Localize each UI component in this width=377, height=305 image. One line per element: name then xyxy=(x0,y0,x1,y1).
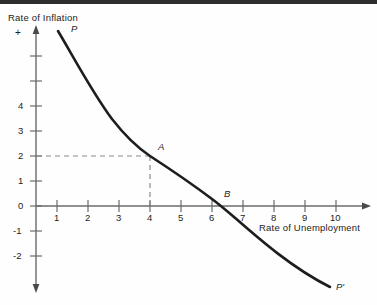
y-tick-label-0: 0 xyxy=(18,200,23,211)
x-tick-label-1: 1 xyxy=(54,212,59,223)
curve-start-label-p: P xyxy=(71,23,77,34)
y-tick-label-4: 4 xyxy=(18,100,23,111)
x-axis-title: Rate of Unemployment xyxy=(259,222,360,233)
point-label-b: B xyxy=(224,188,230,199)
y-tick-label-minus-2: -2 xyxy=(13,250,21,261)
x-tick-label-9: 9 xyxy=(302,212,307,223)
x-tick-label-5: 5 xyxy=(178,212,183,223)
phillips-curve-line xyxy=(58,31,330,287)
y-tick-label-2: 2 xyxy=(18,150,23,161)
curve-end-label-p-prime: P' xyxy=(336,281,344,292)
chart-page: Rate of Inflation Rate of Unemployment +… xyxy=(0,0,377,305)
x-tick-label-4: 4 xyxy=(147,212,152,223)
point-label-a: A xyxy=(158,141,164,152)
x-tick-label-7: 7 xyxy=(240,212,245,223)
positive-axis-plus-sign: + xyxy=(15,27,21,38)
y-tick-label-3: 3 xyxy=(18,125,23,136)
y-tick-label-minus-1: -1 xyxy=(13,225,21,236)
y-axis-title: Rate of Inflation xyxy=(8,12,78,23)
x-tick-label-6: 6 xyxy=(209,212,214,223)
x-tick-label-10: 10 xyxy=(330,212,341,223)
y-tick-label-1: 1 xyxy=(18,175,23,186)
x-tick-label-2: 2 xyxy=(85,212,90,223)
phillips-curve-chart xyxy=(0,0,377,305)
x-axis xyxy=(36,203,371,210)
y-axis xyxy=(33,25,40,293)
x-tick-label-3: 3 xyxy=(116,212,121,223)
point-a-guide-lines xyxy=(37,156,150,205)
x-tick-label-8: 8 xyxy=(271,212,276,223)
